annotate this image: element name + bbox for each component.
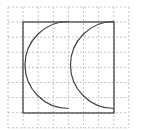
semicircle-arc: [25, 22, 69, 109]
dashed-grid: [8, 7, 129, 128]
semicircle-arc: [71, 22, 115, 109]
grid-diagram: [0, 0, 142, 130]
